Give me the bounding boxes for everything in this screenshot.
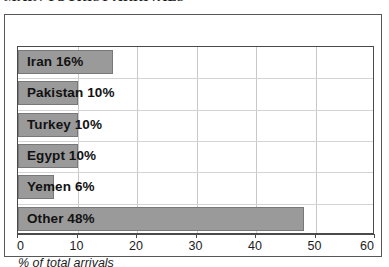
x-tick-mark (255, 234, 256, 238)
x-tick-mark (17, 234, 18, 238)
bar-label-iran: Iran 16% (27, 51, 83, 73)
x-tick-mark (374, 234, 375, 238)
bar-row: Pakistan 10% (18, 78, 373, 109)
bar-label-turkey: Turkey 10% (27, 114, 102, 136)
bar-row: Turkey 10% (18, 110, 373, 141)
x-axis-title: % of total arrivals (18, 256, 114, 267)
row-separator (18, 204, 373, 205)
x-tick-label: 40 (248, 239, 262, 253)
x-tick-mark (315, 234, 316, 238)
x-tick-label: 10 (70, 239, 84, 253)
x-tick-label: 0 (17, 239, 24, 253)
bar-row: Yemen 6% (18, 172, 373, 203)
bar-row: Egypt 10% (18, 141, 373, 172)
bar-label-egypt: Egypt 10% (27, 145, 96, 167)
x-tick-label: 60 (360, 239, 374, 253)
row-separator (18, 172, 373, 173)
row-separator (18, 78, 373, 79)
x-tick-mark (136, 234, 137, 238)
x-tick-label: 30 (189, 239, 203, 253)
row-separator (18, 141, 373, 142)
x-tick-mark (77, 234, 78, 238)
x-tick-label: 20 (129, 239, 143, 253)
chart-title: MAIN TOURIST ARRIVALS (4, 0, 185, 5)
bar-label-pakistan: Pakistan 10% (27, 82, 115, 104)
row-separator (18, 110, 373, 111)
x-tick-mark (196, 234, 197, 238)
chart-frame: Iran 16%Pakistan 10%Turkey 10%Egypt 10%Y… (4, 14, 382, 257)
bar-row: Iran 16% (18, 47, 373, 78)
plot-area: Iran 16%Pakistan 10%Turkey 10%Egypt 10%Y… (17, 46, 374, 234)
bar-row: Other 48% (18, 204, 373, 234)
bar-label-yemen: Yemen 6% (27, 176, 95, 198)
x-tick-label: 50 (308, 239, 322, 253)
bar-label-other: Other 48% (27, 208, 95, 230)
